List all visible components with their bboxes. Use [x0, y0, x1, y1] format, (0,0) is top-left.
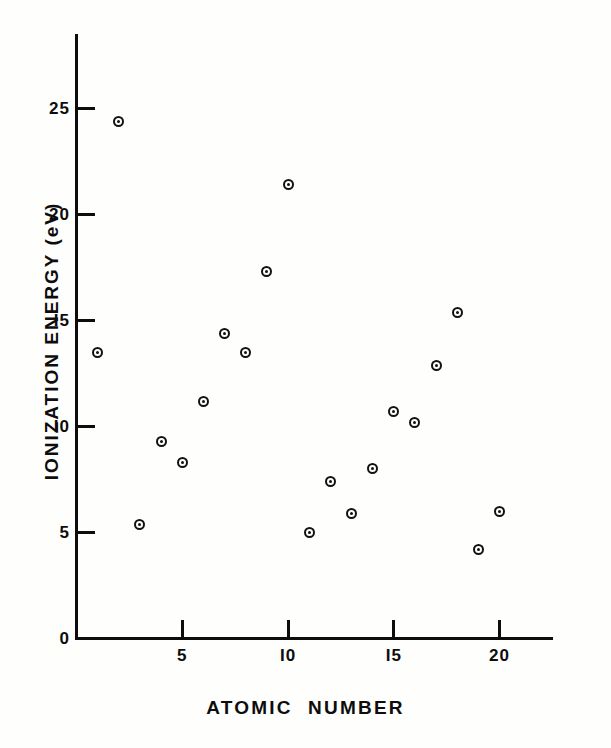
- x-tick-10: [287, 620, 290, 637]
- x-tick-label-10: I0: [266, 646, 310, 666]
- data-point: [346, 508, 357, 519]
- data-point: [304, 527, 315, 538]
- y-tick-5: [78, 531, 95, 534]
- ionization-energy-scatter-chart: 05I0I52025 5I0I520 IONIZATION ENERGY (eV…: [0, 0, 611, 748]
- data-point: [219, 328, 230, 339]
- x-tick-5: [181, 620, 184, 637]
- data-point: [177, 457, 188, 468]
- data-point: [283, 179, 294, 190]
- y-tick-10: [78, 425, 95, 428]
- data-point: [325, 476, 336, 487]
- y-tick-label-0: 0: [30, 629, 70, 649]
- x-tick-20: [498, 620, 501, 637]
- data-point: [409, 417, 420, 428]
- data-point: [367, 463, 378, 474]
- data-point: [452, 307, 463, 318]
- data-point: [134, 519, 145, 530]
- data-point: [261, 266, 272, 277]
- data-point: [473, 544, 484, 555]
- x-tick-label-20: 20: [478, 646, 522, 666]
- y-axis-title: IONIZATION ENERGY (eV): [41, 106, 63, 576]
- data-point: [494, 506, 505, 517]
- y-tick-25: [78, 107, 95, 110]
- data-point: [92, 347, 103, 358]
- y-axis-line: [75, 34, 78, 640]
- y-tick-20: [78, 213, 95, 216]
- data-point: [388, 406, 399, 417]
- y-tick-15: [78, 319, 95, 322]
- data-point: [240, 347, 251, 358]
- x-tick-label-5: 5: [160, 646, 204, 666]
- x-tick-label-15: I5: [372, 646, 416, 666]
- x-tick-15: [392, 620, 395, 637]
- data-point: [431, 360, 442, 371]
- data-point: [113, 116, 124, 127]
- x-axis-line: [75, 637, 553, 640]
- x-axis-title: ATOMIC NUMBER: [0, 697, 611, 719]
- data-point: [156, 436, 167, 447]
- data-point: [198, 396, 209, 407]
